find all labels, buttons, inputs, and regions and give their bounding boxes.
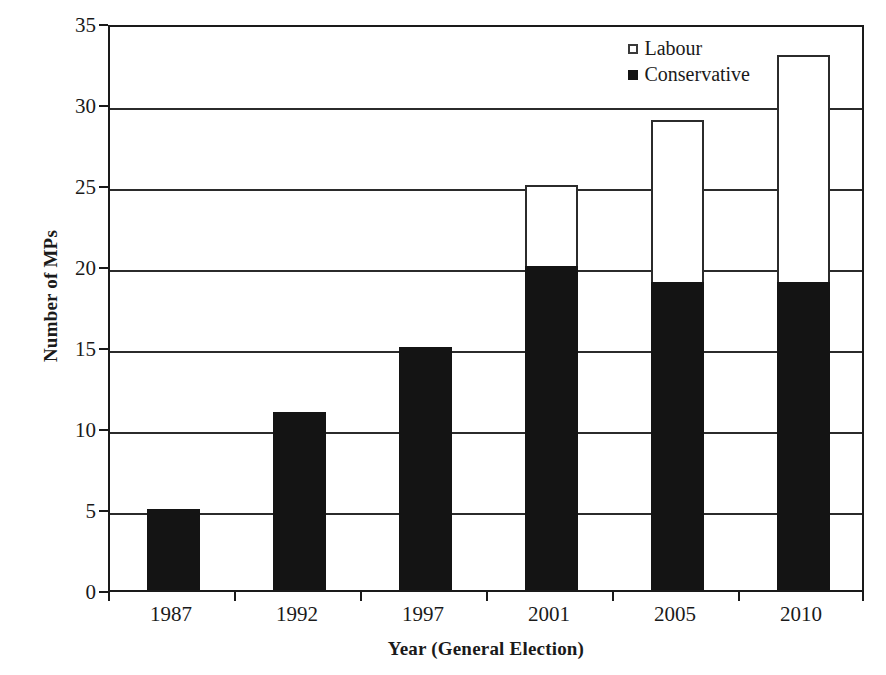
y-axis-tick-mark [99,24,108,26]
x-axis-title: Year (General Election) [108,638,864,660]
x-axis-tick-mark [862,592,864,601]
bar-group-2010 [777,55,830,590]
plot-area: LabourConservative [108,25,864,592]
y-axis-tick-mark [99,429,108,431]
x-axis-tick-label: 2005 [654,604,696,625]
y-axis-tick-label: 25 [48,177,96,198]
x-axis-tick-mark [360,592,362,601]
y-axis-tick-labels: 05101520253035 [48,25,96,592]
y-axis-tick-label: 30 [48,96,96,117]
bar-group-1987 [147,509,200,590]
x-axis-tick-label: 1987 [150,604,192,625]
bar-segment-conservative [651,282,704,590]
x-axis-tick-label: 2010 [780,604,822,625]
legend: LabourConservative [628,37,750,86]
bar-segment-labour [525,185,578,266]
legend-label: Labour [644,37,702,60]
y-axis-tick-label: 0 [48,582,96,603]
bar-group-1992 [273,412,326,590]
y-axis-tick-mark [99,105,108,107]
y-axis-tick-label: 20 [48,258,96,279]
open-square-icon [628,44,638,54]
bar-group-2001 [525,185,578,590]
y-axis-tick-label: 35 [48,15,96,36]
bar-group-2005 [651,120,704,590]
bar-series-container [110,27,862,590]
y-axis-tick-label: 15 [48,339,96,360]
bar-segment-conservative [525,266,578,590]
x-axis-tick-mark [486,592,488,601]
bar-segment-conservative [147,509,200,590]
y-axis-tick-mark [99,348,108,350]
y-axis-tick-mark [99,186,108,188]
x-axis-tick-label: 1997 [402,604,444,625]
x-axis-tick-mark [108,592,110,601]
filled-square-icon [628,70,638,80]
x-axis-tick-mark [738,592,740,601]
bar-chart: Number of MPs 05101520253035 LabourConse… [0,0,886,675]
legend-item: Labour [628,37,750,60]
bar-segment-conservative [273,412,326,590]
legend-label: Conservative [644,63,750,86]
bar-segment-conservative [777,282,830,590]
bar-group-1997 [399,347,452,590]
y-axis-tick-mark [99,510,108,512]
x-axis-tick-label: 2001 [528,604,570,625]
y-axis-tick-label: 10 [48,420,96,441]
x-axis-tick-mark [234,592,236,601]
x-axis-tick-mark [612,592,614,601]
x-axis-tick-label: 1992 [276,604,318,625]
legend-item: Conservative [628,63,750,86]
bar-segment-labour [777,55,830,282]
x-axis-ticks: 198719921997200120052010 [108,592,864,626]
y-axis-tick-mark [99,591,108,593]
y-axis-tick-mark [99,267,108,269]
y-axis-tick-label: 5 [48,501,96,522]
bar-segment-conservative [399,347,452,590]
bar-segment-labour [651,120,704,282]
